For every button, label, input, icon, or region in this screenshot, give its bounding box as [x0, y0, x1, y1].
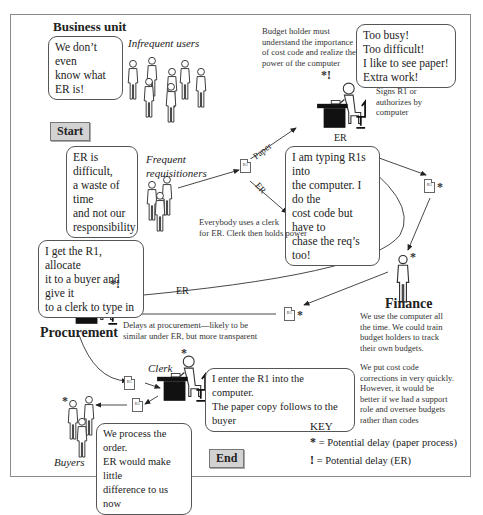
r1-document-icon: R1: [284, 307, 295, 321]
bubble-line: difference to us now: [103, 483, 185, 511]
note-line: similar under ER, but more transparent: [123, 331, 257, 342]
buyers-label: Buyers: [54, 456, 85, 468]
bubble-line: and not our: [73, 206, 131, 220]
note-clerk-power: Everybody uses a clerk for ER. Clerk the…: [199, 217, 307, 238]
bubble-buyers: We process the order. ER would make litt…: [96, 423, 192, 515]
note-line: computer: [376, 107, 422, 118]
r1-document-icon: R1: [132, 398, 143, 412]
note-line: for ER. Clerk then holds power: [199, 228, 307, 239]
note-line: better if we had a support: [360, 394, 454, 405]
note-line: power of the computer: [262, 58, 356, 69]
bubble-line: Too difficult!: [363, 42, 449, 56]
budget-holder-desk: [317, 83, 365, 128]
note-finance: We use the computer all the time. We cou…: [360, 311, 454, 425]
note-line: their own budgets.: [360, 343, 454, 354]
bubble-frequent-requisitioners: ER is difficult, a waste of time and not…: [66, 146, 138, 238]
note-line: Delays at procurement—likely to be: [123, 320, 257, 331]
bubble-budget-holder: Too busy! Too difficult! I like to see p…: [356, 24, 456, 88]
note-budget-holder-need: Budget holder must understand the import…: [262, 26, 356, 68]
delay-marker-star-icon: *: [181, 346, 187, 361]
note-line: authorizes by: [376, 97, 422, 108]
note-line: of cost code and realize the: [262, 47, 356, 58]
frequent-requisitioners-label: Frequent requisitioners: [146, 152, 207, 180]
start-tag: Start: [50, 122, 90, 141]
exclamation-icon: !: [310, 453, 314, 467]
bubble-procurement: I get the R1, allocate it to a buyer and…: [38, 240, 144, 318]
frequent-label-line: Frequent: [146, 152, 207, 166]
bubble-line: it to a buyer and give it: [45, 272, 137, 300]
key-title: KEY: [310, 420, 457, 432]
note-line: budget holders to track: [360, 332, 454, 343]
buyers-group: [68, 396, 94, 457]
bubble-line: to a clerk to type in: [45, 300, 137, 314]
infrequent-users-label: Infrequent users: [128, 37, 199, 49]
key-row-star: * = Potential delay (paper process): [310, 435, 457, 450]
note-line: role and oversee budgets: [360, 404, 454, 415]
bubble-line: Extra work!: [363, 70, 449, 84]
infrequent-users-group: [128, 57, 206, 122]
note-line: However, it would be: [360, 383, 454, 394]
frequent-label-line: requisitioners: [146, 166, 207, 180]
bubble-clerk: I am typing R1s into the computer. I do …: [285, 146, 380, 266]
arrow-label-er-budget: ER: [334, 132, 347, 143]
arrow-label-er-procurement: ER: [176, 285, 189, 296]
bubble-line: chase the req’s too!: [292, 234, 373, 262]
bubble-line: We don’t even: [55, 40, 116, 68]
key-legend: KEY * = Potential delay (paper process) …: [310, 420, 457, 468]
finance-person: [397, 255, 408, 301]
bubble-line: I like to see paper!: [363, 56, 449, 70]
bubble-line: We process the order.: [103, 427, 185, 455]
frequent-requisitioners-group: [147, 176, 172, 231]
bubble-infrequent-users: We don’t even know what ER is!: [48, 36, 123, 100]
bubble-line: ER is difficult,: [73, 150, 131, 178]
key-row-text: = Potential delay (paper process): [319, 437, 457, 448]
end-tag: End: [209, 449, 244, 468]
note-line: We use the computer all: [360, 311, 454, 322]
bubble-line: I enter the R1 into the computer.: [212, 372, 348, 400]
delay-marker-star-icon: *: [410, 250, 416, 265]
note-procurement-delay: Delays at procurement—likely to be simil…: [123, 320, 257, 341]
note-line: We put cost code: [360, 362, 454, 373]
bubble-line: I get the R1, allocate: [45, 244, 137, 272]
bubble-line: the computer. I do the: [292, 178, 373, 206]
key-row-bang: ! = Potential delay (ER): [310, 453, 457, 468]
delay-marker-star-icon: *: [437, 180, 443, 195]
bubble-line: Too busy!: [363, 28, 449, 42]
r1-document-icon: R1: [124, 376, 135, 390]
bubble-line: a waste of time: [73, 178, 131, 206]
delay-marker-procurement: *!: [110, 277, 120, 292]
star-icon: *: [310, 435, 316, 449]
bubble-line: I am typing R1s into: [292, 150, 373, 178]
finance-title: Finance: [385, 296, 432, 312]
r1-document-icon: R1: [424, 179, 435, 193]
bubble-line: know what ER is!: [55, 68, 116, 96]
note-line: corrections in very quickly.: [360, 373, 454, 384]
procurement-title: Procurement: [40, 325, 118, 341]
note-line: understand the importance: [262, 37, 356, 48]
note-budget-holder-role: Signs R1 or authorizes by computer: [376, 86, 422, 118]
bubble-line: responsibility: [73, 220, 131, 234]
delay-marker-star-icon: *: [297, 308, 303, 323]
clerk-bottom-label: Clerk: [148, 362, 172, 374]
note-line: the time. We could train: [360, 322, 454, 333]
bubble-line: ER would make little: [103, 455, 185, 483]
business-unit-title: Business unit: [53, 19, 126, 35]
delay-marker-star-icon: *: [62, 394, 68, 409]
note-line: Everybody uses a clerk: [199, 217, 307, 228]
note-line: Budget holder must: [262, 26, 356, 37]
r1-document-icon: R1: [240, 159, 251, 173]
note-line: Signs R1 or: [376, 86, 422, 97]
key-row-text: = Potential delay (ER): [317, 455, 411, 466]
delay-marker-budget-holder: *!: [321, 68, 331, 83]
